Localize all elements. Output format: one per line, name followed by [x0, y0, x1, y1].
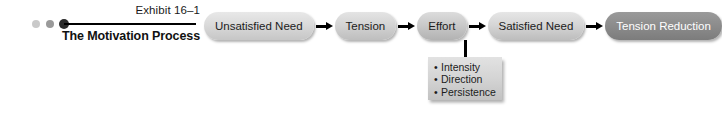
flow-step-satisfied-need: Satisfied Need	[488, 12, 585, 40]
flow-step-label: Tension Reduction	[616, 20, 711, 32]
effort-branch-connector	[464, 40, 467, 58]
arrow-head	[479, 22, 486, 30]
arrow-right-icon	[467, 20, 488, 32]
effort-attribute-item: •Direction	[434, 73, 502, 85]
progress-dot-medium	[46, 20, 54, 28]
arrow-head	[596, 22, 603, 30]
bullet-icon: •	[434, 86, 441, 98]
arrow-head	[408, 22, 415, 30]
flow-step-label: Effort	[428, 20, 455, 32]
arrow-right-icon	[314, 20, 335, 32]
bullet-icon: •	[434, 73, 441, 85]
effort-attribute-label: Intensity	[441, 61, 480, 73]
bullet-icon: •	[434, 61, 441, 73]
flow-step-tension: Tension	[335, 12, 397, 40]
effort-attribute-label: Direction	[441, 73, 482, 85]
flow-step-tension-reduction: Tension Reduction	[605, 12, 722, 40]
exhibit-header: Exhibit 16–1 The Motivation Process	[0, 0, 200, 60]
arrow-right-icon	[584, 20, 605, 32]
arrow-head	[326, 22, 333, 30]
exhibit-title: The Motivation Process	[4, 29, 200, 43]
effort-attribute-item: •Intensity	[434, 61, 502, 73]
flow-step-label: Unsatisfied Need	[215, 20, 303, 32]
flow-step-row: Unsatisfied Need Tension Effort Satisfie…	[204, 11, 722, 41]
effort-attribute-label: Persistence	[441, 86, 496, 98]
arrow-right-icon	[396, 20, 417, 32]
effort-attributes-box: •Intensity •Direction •Persistence	[428, 57, 502, 100]
flow-step-effort: Effort	[417, 12, 466, 40]
flow-step-label: Tension	[346, 20, 386, 32]
effort-attribute-item: •Persistence	[434, 86, 502, 98]
flow-step-label: Satisfied Need	[499, 20, 574, 32]
exhibit-number: Exhibit 16–1	[4, 4, 200, 16]
header-divider-rule	[64, 23, 196, 26]
flow-step-unsatisfied-need: Unsatisfied Need	[204, 12, 314, 40]
progress-dot-light	[32, 20, 40, 28]
motivation-process-diagram: Unsatisfied Need Tension Effort Satisfie…	[204, 0, 720, 125]
